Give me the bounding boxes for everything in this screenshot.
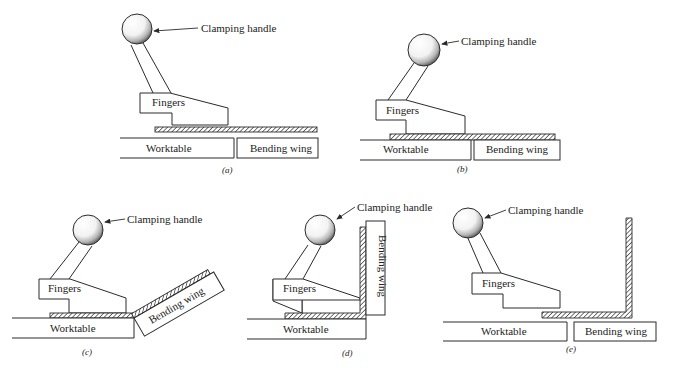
clamping-handle-label: Clamping handle xyxy=(357,201,433,213)
clamping-handle-label: Clamping handle xyxy=(201,22,277,34)
clamping-handle-ball xyxy=(73,215,103,245)
sheet-metal xyxy=(50,313,135,318)
fingers-label: Fingers xyxy=(48,282,81,294)
sheet-metal xyxy=(390,134,555,140)
clamping-handle-ball xyxy=(122,14,152,44)
clamping-handle-label: Clamping handle xyxy=(461,35,537,47)
clamping-handle-ball xyxy=(408,34,440,66)
worktable-label: Worktable xyxy=(50,322,96,334)
panel-a: Clamping handle Fingers Worktable Bendin… xyxy=(120,14,318,175)
bending-wing-label: Bending wing xyxy=(486,143,549,155)
caption-a: (a) xyxy=(222,165,233,175)
fingers-label: Fingers xyxy=(152,96,185,108)
caption-b: (b) xyxy=(457,164,468,174)
bending-wing-label: Bending wing xyxy=(585,325,648,337)
panel-c: Clamping handle Fingers Worktable Bendin… xyxy=(12,213,224,357)
caption-c: (c) xyxy=(82,347,92,357)
clamping-handle-ball xyxy=(305,215,335,245)
fingers-label: Fingers xyxy=(386,104,419,116)
worktable-label: Worktable xyxy=(383,143,429,155)
panel-b: Clamping handle Fingers Worktable Bendin… xyxy=(360,34,560,174)
caption-d: (d) xyxy=(342,348,353,358)
worktable-label: Worktable xyxy=(481,325,527,337)
clamping-handle-label: Clamping handle xyxy=(508,204,584,216)
bending-wing-label: Bending wing xyxy=(377,235,389,298)
clamping-handle-label: Clamping handle xyxy=(127,213,203,225)
bending-wing-label: Bending wing xyxy=(250,142,313,154)
panel-e: Clamping handle Fingers Worktable Bendin… xyxy=(443,204,656,354)
bending-machine-diagram: Clamping handle Fingers Worktable Bendin… xyxy=(0,0,675,371)
clamping-handle-ball xyxy=(453,208,483,238)
worktable-label: Worktable xyxy=(146,142,192,154)
worktable-label: Worktable xyxy=(283,323,329,335)
fingers-label: Fingers xyxy=(482,277,515,289)
sheet-metal xyxy=(155,127,317,132)
panel-d: Clamping handle Fingers Worktable Bendin… xyxy=(247,201,433,358)
fingers-label: Fingers xyxy=(283,282,316,294)
caption-e: (e) xyxy=(566,344,576,354)
